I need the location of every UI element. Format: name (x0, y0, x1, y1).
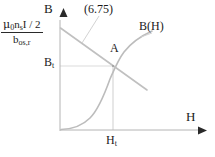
equation-number-label: (6.75) (84, 3, 113, 15)
intercept-expression-denominator: bos,r (1, 33, 43, 46)
load-line (61, 28, 148, 90)
y-axis-arrow-icon (60, 8, 68, 17)
y-tick-label-subscript: t (52, 61, 54, 70)
numerator-tail: / 2 (26, 18, 40, 30)
y-tick-label-base: B (44, 55, 52, 69)
x-tick-label-base: H (106, 133, 115, 147)
operating-point-label: A (110, 42, 119, 54)
x-tick-label-subscript: t (115, 139, 117, 148)
n-subscript: s (20, 23, 23, 32)
bh-curve-figure: B (6.75) B(H) μ0nsI / 2 bos,r Bt A Ht H (0, 0, 215, 157)
bh-curve-label: B(H) (139, 20, 164, 32)
x-axis-arrow-icon (198, 127, 207, 135)
magnetization-curve (61, 31, 152, 130)
b-symbol: b (13, 33, 19, 45)
x-axis-label: H (186, 110, 195, 123)
x-tick-label-ht: Ht (106, 134, 117, 146)
intercept-expression: μ0nsI / 2 bos,r (1, 19, 43, 45)
mu-subscript: 0 (10, 23, 14, 32)
equation-leader-line (82, 16, 99, 43)
b-subscript: os,r (19, 38, 31, 47)
n-symbol: n (14, 18, 20, 30)
y-tick-label-bt: Bt (44, 56, 54, 68)
intercept-expression-numerator: μ0nsI / 2 (1, 19, 43, 33)
y-axis-label: B (44, 2, 53, 15)
operating-point-marker (112, 65, 114, 67)
